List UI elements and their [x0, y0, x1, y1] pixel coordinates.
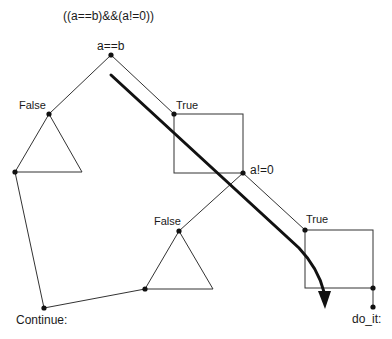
edge-false1-continue [15, 172, 44, 308]
node-triangle1-exit-dot [12, 169, 17, 174]
node-box2-exit-dot [370, 285, 375, 290]
node-dots [12, 52, 375, 310]
node-triangle2-exit-dot [142, 286, 147, 291]
execution-path-arrow [111, 75, 324, 292]
label-root-test: a==b [97, 40, 124, 52]
true-branch-box-2 [305, 230, 373, 288]
node-true1-dot [171, 111, 176, 116]
edge-false2-continue [44, 289, 145, 308]
node-root-dot [108, 52, 113, 57]
false-branch-triangle-1 [15, 114, 82, 172]
false-branch-triangle-2 [145, 231, 213, 289]
node-doit-dot [370, 304, 375, 309]
label-second-test: a!=0 [250, 164, 274, 176]
tree-edges [15, 55, 373, 308]
node-false2-dot [176, 228, 181, 233]
label-false-2: False [154, 216, 181, 227]
node-true2-dot [302, 227, 307, 232]
node-continue-dot [41, 305, 46, 310]
label-false-1: False [19, 100, 46, 111]
short-circuit-and-diagram [0, 0, 392, 339]
label-true-2: True [306, 214, 328, 225]
edge-second-false [179, 173, 243, 231]
node-second-test-dot [240, 170, 245, 175]
edge-root-false [49, 55, 111, 114]
label-true-1: True [176, 100, 198, 111]
label-do-it: do_it: [352, 313, 381, 325]
edge-second-true [243, 173, 305, 230]
node-false1-dot [46, 111, 51, 116]
arrowhead-icon [318, 291, 331, 309]
label-continue: Continue: [16, 314, 67, 326]
expression-title: ((a==b)&&(a!=0)) [63, 10, 154, 22]
